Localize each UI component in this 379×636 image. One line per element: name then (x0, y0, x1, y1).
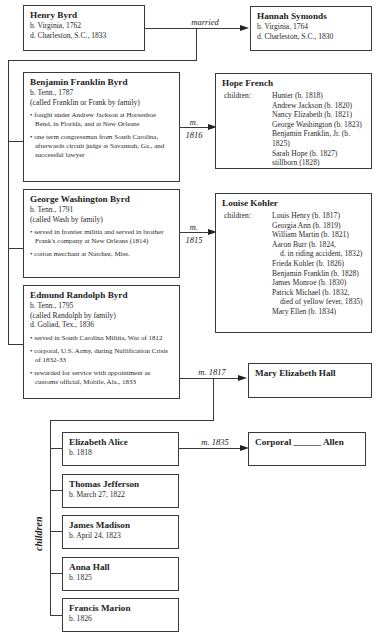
child-entry: Sarah Hope (b. 1827) (272, 149, 365, 159)
death-info: d. Charleston, S.C., 1830 (257, 32, 365, 42)
marriage-connector (180, 232, 210, 233)
marriage-label-year: 1815 (180, 235, 208, 245)
sibling-branch (8, 344, 23, 345)
arrow-icon (238, 375, 247, 381)
marriage-label: m. 1817 (190, 367, 234, 377)
birth-info: b. Virginia, 1764 (257, 22, 365, 32)
person-hope-french: Hope French children: Hunter (b. 1818) A… (215, 73, 372, 169)
child-entry: Nancy Elizabeth (b. 1821) (272, 110, 365, 120)
child-entry: Andrew Jackson (b. 1820) (272, 101, 365, 111)
birth-info: b. April 24, 1823 (69, 531, 172, 541)
children-label: children: (222, 211, 272, 317)
nickname: (called Franklin or Frank by family) (30, 98, 173, 108)
marriage-connector (180, 378, 240, 379)
child-thomas-jefferson: Thomas Jefferson b. March 27, 1822 (62, 474, 179, 508)
sibling-branch (8, 248, 23, 249)
marriage-label-year: 1816 (180, 130, 208, 140)
person-name: Henry Byrd (30, 10, 138, 21)
arrow-icon (240, 25, 249, 31)
bio-bullet: one term congressman from South Carolina… (30, 133, 173, 160)
descent-line (50, 420, 214, 421)
death-info: d. Charleston, S.C., 1833 (30, 31, 138, 41)
bio-bullet: rewarded for service with appointment as… (30, 369, 173, 387)
bio-bullet: cotton merchant at Natchez, Miss. (30, 250, 173, 259)
child-entry: Patrick Michael (b. 1832, (272, 288, 363, 298)
person-name: Hope French (222, 78, 365, 89)
descent-line (8, 60, 197, 61)
bio-bullet: served in South Carolina Militia, War of… (30, 334, 173, 343)
death-info: d. Goliad, Tex., 1836 (30, 320, 173, 330)
sibling-trunk (8, 226, 9, 345)
person-name: Mary Elizabeth Hall (255, 368, 365, 379)
birth-info: b. Tenn., 1787 (30, 88, 173, 98)
person-edmund-randolph-byrd: Edmund Randolph Byrd b. Tenn., 1795 (cal… (23, 285, 180, 399)
nickname: (called Randolph by family) (30, 311, 173, 321)
bio-bullet: corporal, U.S. Army, during Nullificatio… (30, 347, 173, 365)
person-name: Anna Hall (69, 562, 172, 573)
birth-info: b. Virginia, 1762 (30, 21, 138, 31)
child-branch (50, 531, 62, 532)
person-name: Benjamin Franklin Byrd (30, 77, 173, 88)
birth-info: b. 1818 (69, 448, 172, 458)
descent-line (196, 28, 197, 60)
person-mary-elizabeth-hall: Mary Elizabeth Hall (248, 363, 372, 398)
child-james-madison: James Madison b. April 24, 1823 (62, 515, 179, 549)
person-corporal-allen: Corporal ______ Allen (248, 432, 366, 466)
marriage-label-m: m. (180, 222, 208, 232)
child-entry: Hunter (b. 1818) (272, 91, 365, 101)
descent-line (213, 378, 214, 420)
child-entry: Mary Ellen (b. 1834) (272, 307, 363, 317)
child-branch (50, 490, 62, 491)
child-entry: James Monroe (b. 1830) (272, 278, 363, 288)
person-louise-kohler: Louise Kohler children: Louis Henry (b. … (215, 193, 372, 333)
birth-info: b. Tenn., 1791 (30, 205, 173, 215)
person-name: George Washington Byrd (30, 194, 173, 205)
sibling-trunk (8, 60, 9, 226)
child-francis-marion: Francis Marion b. 1826 (62, 598, 179, 632)
child-entry: Georgia Ann (b. 1819) (272, 221, 363, 231)
person-henry-byrd: Henry Byrd b. Virginia, 1762 d. Charlest… (23, 5, 145, 51)
child-entry: William Martin (b. 1821) (272, 230, 363, 240)
person-name: Thomas Jefferson (69, 479, 172, 490)
person-benjamin-franklin-byrd: Benjamin Franklin Byrd b. Tenn., 1787 (c… (23, 72, 180, 182)
child-entry: Aaron Burr (b. 1824, (272, 240, 363, 250)
person-name: James Madison (69, 520, 172, 531)
nickname: (called Wash by family) (30, 215, 173, 225)
marriage-label-m: m. (180, 117, 208, 127)
child-branch (50, 448, 62, 449)
children-label: children: (222, 91, 272, 168)
person-name: Edmund Randolph Byrd (30, 290, 173, 301)
person-name: Elizabeth Alice (69, 437, 172, 448)
bio-bullet: fought under Andrew Jackson at Horseshoe… (30, 111, 173, 129)
birth-info: b. March 27, 1822 (69, 490, 172, 500)
person-name: Corporal ______ Allen (255, 437, 359, 448)
child-branch (50, 615, 62, 616)
child-entry-continued: d. in riding accident, 1832) (272, 249, 363, 259)
married-connector (145, 28, 241, 29)
child-branch (50, 573, 62, 574)
person-name: Hannah Symonds (257, 11, 365, 22)
married-label: married (180, 17, 230, 27)
child-entry-continued: died of yellow fever, 1835) (272, 297, 363, 307)
marriage-connector (179, 448, 241, 449)
marriage-label: m. 1835 (193, 437, 237, 447)
child-elizabeth-alice: Elizabeth Alice b. 1818 (62, 432, 179, 466)
person-george-washington-byrd: George Washington Byrd b. Tenn., 1791 (c… (23, 189, 180, 278)
children-list: children: Hunter (b. 1818) Andrew Jackso… (222, 91, 365, 168)
child-entry: George Washington (b. 1823) (272, 120, 365, 130)
child-entry: Benjamin Franklin, Jr. (b. 1825) (272, 129, 365, 148)
bio-bullet: served in frontier militia and served in… (30, 228, 173, 246)
marriage-connector (180, 127, 210, 128)
person-hannah-symonds: Hannah Symonds b. Virginia, 1764 d. Char… (250, 6, 372, 51)
birth-info: b. Tenn., 1795 (30, 301, 173, 311)
person-name: Francis Marion (69, 603, 172, 614)
birth-info: b. 1826 (69, 614, 172, 624)
person-name: Louise Kohler (222, 198, 365, 209)
child-entry: Frieda Kohler (b. 1826) (272, 259, 363, 269)
children-trunk (50, 420, 51, 616)
sibling-branch (8, 141, 23, 142)
children-list: children: Louis Henry (b. 1817) Georgia … (222, 211, 365, 317)
child-entry: Benjamin Franklin (b. 1828) (272, 269, 363, 279)
child-entry: Louis Henry (b. 1817) (272, 211, 363, 221)
birth-info: b. 1825 (69, 573, 172, 583)
